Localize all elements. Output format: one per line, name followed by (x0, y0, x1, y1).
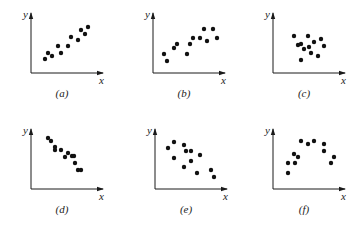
data-point (56, 44, 60, 48)
data-point (296, 155, 300, 159)
data-point (162, 52, 166, 56)
data-point (184, 149, 188, 153)
data-point (175, 42, 179, 46)
x-axis-label: x (222, 190, 228, 202)
data-point (66, 44, 70, 48)
data-point (79, 168, 83, 172)
data-point (202, 27, 206, 31)
y-arrow-icon (151, 12, 155, 19)
y-axis-label: y (22, 8, 28, 20)
data-point (292, 34, 296, 38)
data-point (312, 40, 316, 44)
data-point (172, 140, 176, 144)
x-axis-label: x (98, 190, 104, 202)
data-point (286, 161, 290, 165)
data-point (172, 46, 176, 50)
scatter-panel-b: yx(b) (144, 8, 226, 100)
data-point (306, 34, 310, 38)
data-point (307, 45, 311, 49)
panel-caption: (e) (180, 203, 193, 216)
data-point (191, 36, 195, 40)
panel-caption: (b) (178, 87, 191, 100)
data-point (209, 168, 213, 172)
x-axis-label: x (340, 74, 346, 86)
y-arrow-icon (271, 12, 275, 19)
data-point (73, 161, 77, 165)
data-point (322, 149, 326, 153)
data-point (59, 148, 63, 152)
scatter-panel-f: yx(f) (264, 124, 346, 216)
panel-caption: (f) (299, 203, 310, 216)
data-point (189, 149, 193, 153)
y-axis-label: y (264, 124, 270, 136)
x-axis-label: x (340, 190, 346, 202)
data-point (49, 139, 53, 143)
data-point (83, 32, 87, 36)
data-point (306, 142, 310, 146)
data-point (63, 155, 67, 159)
data-point (322, 142, 326, 146)
data-point (172, 156, 176, 160)
y-axis-label: y (264, 8, 270, 20)
panel-caption: (c) (298, 87, 311, 100)
x-axis-label: x (220, 74, 226, 86)
data-point (319, 37, 323, 41)
y-axis-label: y (146, 124, 152, 136)
data-point (292, 152, 296, 156)
data-point (211, 27, 215, 31)
data-point (76, 38, 80, 42)
data-point (312, 139, 316, 143)
data-point (329, 161, 333, 165)
data-point (299, 42, 303, 46)
data-point (322, 44, 326, 48)
data-point (182, 143, 186, 147)
y-arrow-icon (29, 128, 33, 135)
y-arrow-icon (271, 128, 275, 135)
data-point (299, 58, 303, 62)
data-point (299, 139, 303, 143)
data-point (212, 175, 216, 179)
data-point (302, 47, 306, 51)
data-point (205, 39, 209, 43)
data-point (69, 35, 73, 39)
data-point (79, 28, 83, 32)
scatter-panel-d: yx(d) (22, 124, 104, 216)
data-point (198, 36, 202, 40)
data-point (195, 171, 199, 175)
y-arrow-icon (153, 128, 157, 135)
data-point (66, 151, 70, 155)
data-point (198, 153, 202, 157)
panel-caption: (d) (56, 203, 69, 216)
data-point (182, 165, 186, 169)
y-axis-label: y (22, 124, 28, 136)
data-point (50, 54, 54, 58)
data-point (165, 59, 169, 63)
data-point (286, 171, 290, 175)
data-point (59, 51, 63, 55)
data-point (189, 159, 193, 163)
data-point (293, 161, 297, 165)
data-point (86, 25, 90, 29)
data-point (43, 57, 47, 61)
data-point (72, 154, 76, 158)
scatter-panel-c: yx(c) (264, 8, 346, 100)
data-point (53, 148, 57, 152)
data-point (332, 155, 336, 159)
data-point (166, 146, 170, 150)
y-axis-label: y (144, 8, 150, 20)
data-point (309, 51, 313, 55)
data-point (316, 54, 320, 58)
x-axis-label: x (98, 74, 104, 86)
data-point (215, 36, 219, 40)
scatter-panel-e: yx(e) (146, 124, 228, 216)
data-point (46, 51, 50, 55)
scatter-panel-a: yx(a) (22, 8, 104, 100)
data-point (188, 42, 192, 46)
y-arrow-icon (29, 12, 33, 19)
panel-caption: (a) (56, 87, 69, 100)
data-point (185, 52, 189, 56)
scatter-correlation-figure: yx(a)yx(b)yx(c)yx(d)yx(e)yx(f) (0, 0, 364, 232)
